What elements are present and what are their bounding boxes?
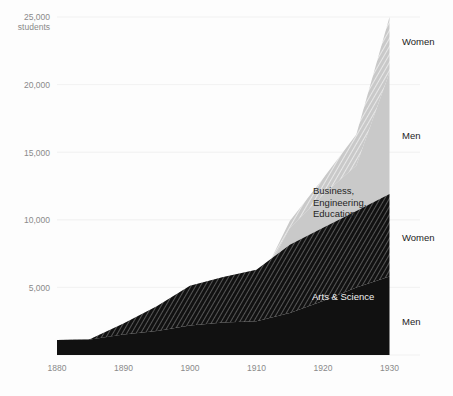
y-tick-label: 10,000 — [24, 215, 50, 225]
x-tick-label: 1880 — [48, 363, 67, 373]
x-tick-label: 1910 — [247, 363, 266, 373]
right-label-business-men: Men — [402, 130, 420, 141]
business-label-line3: Education — [313, 208, 355, 219]
x-tick-label: 1890 — [114, 363, 133, 373]
y-tick-label: 20,000 — [24, 80, 50, 90]
business-label-line2: Engineering, — [313, 197, 366, 208]
x-tick-label: 1900 — [181, 363, 200, 373]
right-label-arts-women: Women — [402, 232, 435, 243]
arts-science-label: Arts & Science — [312, 291, 374, 302]
stacked-area-chart: 25,000 students 20,000 15,000 10,000 5,0… — [0, 0, 453, 396]
business-label-line1: Business, — [313, 185, 354, 196]
y-tick-label: 15,000 — [24, 148, 50, 158]
y-tick-label: 5,000 — [29, 283, 51, 293]
right-label-arts-men: Men — [402, 316, 420, 327]
x-tick-label: 1930 — [380, 363, 399, 373]
y-tick-label: 25,000 — [24, 12, 50, 22]
chart-canvas: 25,000 students 20,000 15,000 10,000 5,0… — [0, 0, 453, 396]
y-axis-unit-label: students — [18, 22, 50, 32]
x-tick-label: 1920 — [314, 363, 333, 373]
right-label-business-women: Women — [402, 36, 435, 47]
